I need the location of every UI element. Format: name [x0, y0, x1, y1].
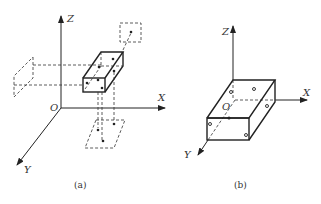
block-a	[83, 52, 123, 92]
caption-a: (a)	[74, 180, 86, 190]
y-axis-a	[17, 108, 61, 165]
origin-label-a: O	[50, 102, 58, 113]
x-label-a: X	[157, 92, 166, 103]
caption-b: (b)	[234, 180, 247, 190]
projection-xz-a	[120, 23, 141, 50]
block-b	[207, 80, 275, 140]
origin-label-b: O	[222, 101, 230, 112]
figure-b: Z X Y O (b)	[184, 26, 311, 190]
z-label-a: Z	[66, 13, 75, 24]
diagram-canvas: Z X Y O	[0, 0, 321, 204]
projection-yz-a	[14, 57, 101, 97]
block-b-points	[209, 88, 269, 137]
y-label-b: Y	[184, 149, 192, 160]
x-label-b: X	[302, 87, 311, 98]
y-label-a: Y	[24, 164, 32, 175]
z-label-b: Z	[221, 26, 230, 37]
figure-a: Z X Y O	[14, 13, 166, 190]
block-b-edge-point	[228, 117, 231, 120]
y-axis-b	[198, 140, 208, 155]
